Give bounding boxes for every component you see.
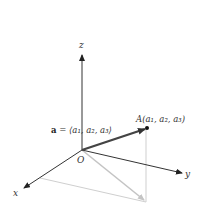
vector-diagram: z y x O A(a₁, a₂, a₃) a = ⟨a₁, a₂, a₃⟩: [0, 0, 207, 216]
vector-components: ⟨a₁, a₂, a₃⟩: [69, 125, 112, 135]
point-a-label: A(a₁, a₂, a₃): [135, 114, 185, 124]
z-axis-label: z: [78, 40, 84, 50]
projection-line-to-x: [40, 178, 146, 202]
y-axis-label: y: [184, 169, 191, 179]
x-axis-label: x: [13, 188, 18, 198]
origin-label: O: [77, 155, 85, 165]
vector-equals: =: [57, 125, 70, 135]
x-axis: [24, 150, 82, 188]
point-a-dot: [145, 126, 149, 130]
vector-a-label: a = ⟨a₁, a₂, a₃⟩: [51, 125, 112, 135]
